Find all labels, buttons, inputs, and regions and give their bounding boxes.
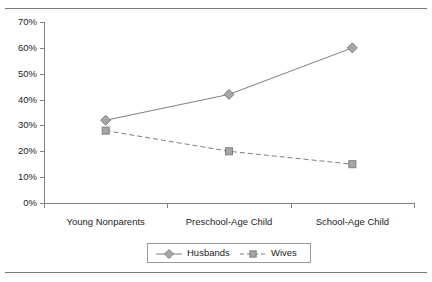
series-group (101, 43, 358, 168)
data-point-diamond-marker (347, 43, 357, 53)
data-point-square-marker (226, 148, 233, 155)
chart-figure: 0%10%20%30%40%50%60%70% Young Nonparents… (0, 0, 432, 282)
data-point-square-marker (250, 251, 256, 257)
y-axis-tick-label: 70% (18, 17, 37, 27)
y-axis-tick-label: 30% (18, 121, 37, 131)
y-axis-tick-label: 0% (23, 198, 37, 208)
data-point-square-marker (102, 127, 109, 134)
data-point-diamond-marker (101, 115, 111, 125)
y-axis-tick-label: 60% (18, 43, 37, 53)
axes-group (40, 22, 415, 208)
x-axis-tick-label: School-Age Child (316, 217, 389, 227)
data-point-square-marker (349, 161, 356, 168)
y-axis-tick-label: 50% (18, 69, 37, 79)
legend-label-wives: Wives (271, 248, 297, 258)
legend-label-husbands: Husbands (187, 248, 230, 258)
series-line-husbands (106, 48, 353, 120)
y-axis-tick-label: 40% (18, 95, 37, 105)
plot-area (0, 0, 432, 282)
data-point-diamond-marker (224, 89, 234, 99)
x-axis-tick-label: Young Nonparents (66, 217, 144, 227)
x-axis-tick-label: Preschool-Age Child (186, 217, 273, 227)
y-axis-tick-label: 20% (18, 147, 37, 157)
y-axis-tick-label: 10% (18, 172, 37, 182)
data-point-diamond-marker (165, 250, 174, 259)
